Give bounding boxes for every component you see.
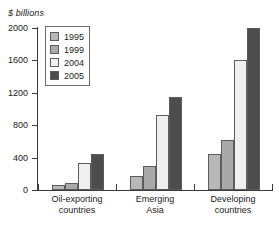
- bar-emerging-asia-1999: [143, 166, 156, 190]
- y-axis-tick: [32, 125, 38, 126]
- y-axis-tick: [32, 28, 38, 29]
- bar-developing-countries-2004: [234, 60, 247, 190]
- legend-swatch-icon: [50, 32, 59, 41]
- bar-developing-countries-1995: [208, 154, 221, 190]
- y-axis-tick-label: 0: [23, 185, 28, 195]
- legend-item-label: 1999: [64, 45, 84, 55]
- bar-emerging-asia-2004: [156, 115, 169, 190]
- legend-item-label: 2004: [64, 58, 84, 68]
- x-axis-tick: [116, 184, 117, 191]
- y-axis-tick-label: 400: [13, 153, 28, 163]
- x-axis-category-label-line: countries: [194, 205, 272, 216]
- y-axis-line: [37, 27, 38, 191]
- bar-emerging-asia-1995: [130, 176, 143, 190]
- x-axis-category-label: Developingcountries: [194, 194, 272, 216]
- y-axis-tick: [32, 158, 38, 159]
- x-axis-tick: [194, 184, 195, 191]
- x-axis-category-label-line: Asia: [116, 205, 194, 216]
- legend-item-2005: 2005: [50, 69, 84, 82]
- chart-axis-title: $ billions: [8, 8, 44, 18]
- x-axis-category-label: EmergingAsia: [116, 194, 194, 216]
- legend-item-1999: 1999: [50, 43, 84, 56]
- x-axis-category-label-line: Oil-exporting: [38, 194, 116, 205]
- x-axis-tick: [38, 184, 39, 191]
- y-axis-tick-label: 800: [13, 120, 28, 130]
- bar-oil-exporting-countries-2004: [78, 163, 91, 190]
- x-axis-category-label: Oil-exportingcountries: [38, 194, 116, 216]
- legend-swatch-icon: [50, 45, 59, 54]
- x-axis-tick: [272, 184, 273, 191]
- x-axis-category-label-line: Developing: [194, 194, 272, 205]
- legend-item-label: 1995: [64, 32, 84, 42]
- bar-developing-countries-2005: [247, 28, 260, 190]
- y-axis-tick-label: 1200: [8, 88, 28, 98]
- legend-swatch-icon: [50, 71, 59, 80]
- bar-chart: $ billions 0400800120016002000 Oil-expor…: [0, 0, 279, 236]
- y-axis-tick: [32, 93, 38, 94]
- y-axis-tick-label: 1600: [8, 55, 28, 65]
- x-axis-category-label-line: countries: [38, 205, 116, 216]
- legend-item-1995: 1995: [50, 30, 84, 43]
- legend-item-2004: 2004: [50, 56, 84, 69]
- legend-item-label: 2005: [64, 71, 84, 81]
- bar-oil-exporting-countries-1999: [65, 183, 78, 190]
- legend-swatch-icon: [50, 58, 59, 67]
- bar-developing-countries-1999: [221, 140, 234, 190]
- bar-emerging-asia-2005: [169, 97, 182, 190]
- chart-legend: 1995199920042005: [45, 26, 90, 86]
- bar-oil-exporting-countries-1995: [52, 185, 65, 190]
- y-axis-tick: [32, 60, 38, 61]
- x-axis-category-label-line: Emerging: [116, 194, 194, 205]
- x-axis-line: [37, 190, 273, 191]
- bar-oil-exporting-countries-2005: [91, 154, 104, 190]
- y-axis-tick-label: 2000: [8, 23, 28, 33]
